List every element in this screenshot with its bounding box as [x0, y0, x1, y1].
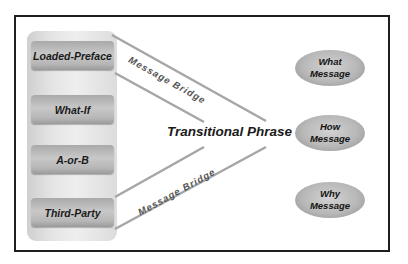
why-message-oval: Why Message	[295, 182, 365, 218]
oval-line1: What	[318, 56, 341, 68]
bridge-line-top-outer	[112, 35, 266, 121]
oval-line2: Message	[310, 133, 350, 145]
transitional-phrase-label: Transitional Phrase	[167, 124, 292, 139]
oval-line1: How	[320, 121, 340, 133]
what-message-oval: What Message	[295, 50, 365, 86]
how-message-oval: How Message	[295, 115, 365, 151]
oval-line2: Message	[310, 200, 350, 212]
oval-line1: Why	[320, 188, 340, 200]
oval-line2: Message	[310, 68, 350, 80]
